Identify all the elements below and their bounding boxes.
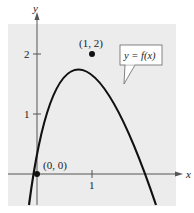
chart: y 2 1 x 1 (0, 0) (1, 2) y = f(x) [0, 0, 194, 213]
point-vertex-label: (1, 2) [79, 37, 103, 50]
x-axis-label: x [185, 168, 191, 180]
point-origin [34, 171, 40, 177]
x-tick-1: 1 [89, 179, 95, 191]
y-tick-1: 1 [24, 108, 30, 120]
point-origin-label: (0, 0) [43, 159, 67, 172]
callout-label: y = f(x) [123, 50, 156, 62]
y-tick-2: 2 [24, 48, 30, 60]
point-vertex [89, 51, 95, 57]
y-axis-label: y [32, 2, 38, 14]
